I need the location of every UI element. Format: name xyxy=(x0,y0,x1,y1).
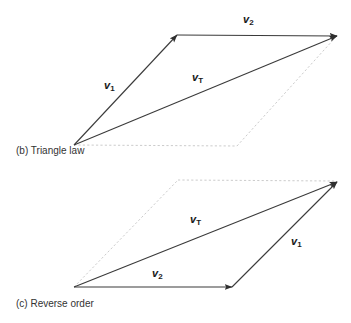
panel-c-label-v2-sub: 2 xyxy=(158,272,162,281)
panel-b-vector-v2 xyxy=(177,35,337,36)
panel-b-label-vt-sub: T xyxy=(198,76,203,85)
panel-b-label-v2: v2 xyxy=(243,14,254,25)
panel-c-label-v1-sub: 1 xyxy=(297,240,301,249)
panel-b-label-vt: vT xyxy=(192,72,203,83)
panel-c-caption: (c) Reverse order xyxy=(16,299,94,309)
panel-b-label-v2-sub: 2 xyxy=(249,18,253,27)
panel-b-dashed-side xyxy=(237,39,334,146)
panel-c-label-v1: v1 xyxy=(291,236,302,247)
panel-c-graphics xyxy=(74,180,337,287)
panel-c-label-v2: v2 xyxy=(152,268,163,279)
panel-c-label-vt: vT xyxy=(190,214,201,225)
panel-c-dashed-top xyxy=(178,180,334,181)
panel-b-caption: (b) Triangle law xyxy=(16,146,84,156)
vector-diagram-canvas xyxy=(0,0,351,323)
vector-addition-figure: v1 v2 vT (b) Triangle law v1 v2 vT (c) R… xyxy=(0,0,351,323)
panel-b-dashed-base xyxy=(74,145,237,146)
panel-c-vector-vt xyxy=(74,182,337,287)
panel-b-label-v1-sub: 1 xyxy=(110,84,114,93)
panel-c-label-vt-sub: T xyxy=(196,218,201,227)
panel-b-vector-v1 xyxy=(74,35,177,145)
panel-b-label-v1: v1 xyxy=(104,80,115,91)
panel-c-vector-v1 xyxy=(232,182,337,287)
